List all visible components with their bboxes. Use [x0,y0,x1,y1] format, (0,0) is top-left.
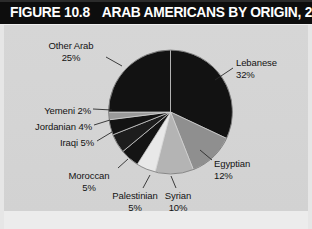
label-egyptian: Egyptian 12% [214,158,250,181]
label-lebanese-pct: 32% [236,69,277,81]
label-egyptian-name: Egyptian [214,158,250,169]
label-yemeni-text: Yemeni 2% [44,105,91,116]
leader-line-syrian [171,176,176,188]
label-other-arab-pct: 25% [38,52,104,64]
label-palestinian-name: Palestinian [112,190,157,201]
label-lebanese-name: Lebanese [236,57,277,68]
label-iraqi-text: Iraqi 5% [60,137,94,148]
label-moroccan-pct: 5% [63,182,115,194]
leader-line-moroccan [118,159,128,168]
label-jordanian: Jordanian 4% [12,121,92,133]
pie-slice-other-arab [109,50,171,112]
label-iraqi: Iraqi 5% [28,137,94,149]
leader-line-iraqi [97,132,112,141]
leader-line-palestinian [143,175,150,188]
label-yemeni: Yemeni 2% [20,105,91,117]
label-syrian-name: Syrian [165,190,191,201]
leader-line-other-arab [106,57,122,66]
label-syrian: Syrian 10% [160,190,196,213]
label-palestinian-pct: 5% [109,202,161,214]
leader-line-jordanian [94,120,110,125]
figure-container: FIGURE 10.8 ARAB AMERICANS BY ORIGIN, 20… [0,0,312,229]
label-moroccan: Moroccan 5% [63,170,115,193]
label-moroccan-name: Moroccan [69,170,110,181]
pie-slices [109,50,233,174]
label-jordanian-text: Jordanian 4% [35,121,92,132]
label-syrian-pct: 10% [160,202,196,214]
label-palestinian: Palestinian 5% [109,190,161,213]
label-other-arab: Other Arab 25% [38,40,104,63]
label-egyptian-pct: 12% [214,170,250,182]
label-other-arab-name: Other Arab [49,40,94,51]
label-lebanese: Lebanese 32% [236,57,277,80]
